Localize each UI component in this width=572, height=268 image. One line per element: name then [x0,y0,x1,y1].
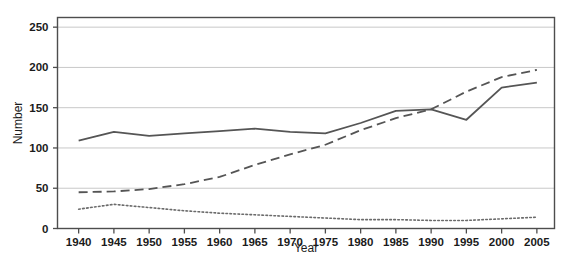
y-tick-label-50: 50 [36,182,49,194]
x-tick-label-1980: 1980 [348,236,374,248]
x-axis-title: Year [294,241,318,255]
x-tick-label-1995: 1995 [454,236,480,248]
line-chart: 1940194519501955196019651970197519801985… [0,0,572,268]
y-tick-label-100: 100 [29,142,48,154]
y-tick-label-250: 250 [29,21,48,33]
x-tick-label-1965: 1965 [242,236,268,248]
x-tick-label-1950: 1950 [136,236,162,248]
x-tick-label-1945: 1945 [101,236,127,248]
x-tick-label-1990: 1990 [418,236,444,248]
x-tick-label-1940: 1940 [66,236,92,248]
x-tick-label-1960: 1960 [207,236,233,248]
x-tick-label-2000: 2000 [489,236,515,248]
x-tick-label-2005: 2005 [524,236,550,248]
y-tick-label-150: 150 [29,102,48,114]
x-tick-label-1985: 1985 [383,236,409,248]
chart-figure: 1940194519501955196019651970197519801985… [0,0,572,268]
y-tick-label-200: 200 [29,61,48,73]
y-axis-title: Number [11,102,25,145]
x-tick-label-1955: 1955 [172,236,198,248]
y-tick-label-0: 0 [42,223,48,235]
